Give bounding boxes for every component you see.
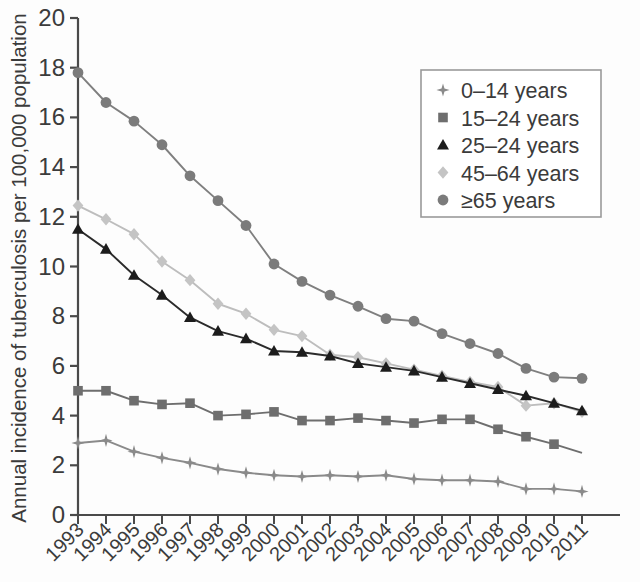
data-point-square [325, 416, 335, 426]
data-point-square [157, 400, 167, 410]
y-axis-title-text: Annual incidence of tuberculosis per 100… [7, 13, 30, 522]
data-point-circle [185, 170, 196, 181]
legend-label: 25–24 years [461, 134, 579, 158]
data-point-circle [577, 373, 588, 384]
y-tick-label: 16 [38, 103, 65, 130]
data-point-circle [269, 259, 280, 270]
data-point-square [437, 415, 447, 425]
data-point-square [129, 396, 139, 406]
legend-label: 15–24 years [461, 107, 579, 131]
data-point-circle [297, 276, 308, 287]
data-point-square [549, 439, 559, 449]
line-chart: Annual incidence of tuberculosis per 100… [0, 0, 640, 582]
data-point-square [465, 415, 475, 425]
data-point-square [269, 407, 279, 417]
data-point-circle [493, 348, 504, 359]
legend-label: 45–64 years [461, 162, 579, 186]
data-point-square [381, 416, 391, 426]
data-point-circle [353, 301, 364, 312]
data-point-square [213, 411, 223, 421]
data-point-square [73, 386, 83, 396]
y-tick-label: 20 [38, 4, 65, 31]
y-tick-label: 10 [38, 253, 65, 280]
data-point-circle [101, 97, 112, 108]
data-point-circle [381, 313, 392, 324]
y-tick-label: 6 [52, 352, 65, 379]
chart-figure: Annual incidence of tuberculosis per 100… [0, 0, 640, 582]
data-point-square [101, 386, 111, 396]
data-point-square [438, 113, 448, 123]
legend-label: 0–14 years [461, 79, 567, 103]
data-point-circle [409, 316, 420, 327]
data-point-circle [438, 195, 449, 206]
data-point-circle [521, 363, 532, 374]
y-tick-label: 2 [52, 451, 65, 478]
y-tick-label: 18 [38, 54, 65, 81]
y-tick-label: 0 [52, 501, 65, 528]
legend-label: ≥65 years [461, 189, 555, 213]
data-point-circle [437, 328, 448, 339]
data-point-square [241, 410, 251, 420]
chart-legend: 0–14 years15–24 years25–24 years45–64 ye… [421, 70, 601, 217]
data-point-square [409, 418, 419, 428]
y-axis-title: Annual incidence of tuberculosis per 100… [7, 13, 30, 522]
data-point-circle [549, 372, 560, 383]
y-tick-label: 12 [38, 203, 65, 230]
data-point-circle [213, 195, 224, 206]
data-point-circle [129, 116, 140, 127]
data-point-circle [73, 67, 84, 78]
data-point-circle [241, 220, 252, 231]
data-point-circle [325, 290, 336, 301]
data-point-square [297, 416, 307, 426]
data-point-circle [465, 338, 476, 349]
data-point-square [185, 398, 195, 408]
y-tick-label: 8 [52, 302, 65, 329]
data-point-square [493, 424, 503, 434]
data-point-square [521, 432, 531, 442]
y-tick-label: 4 [52, 402, 65, 429]
data-point-square [353, 413, 363, 423]
y-tick-label: 14 [38, 153, 65, 180]
data-point-circle [157, 139, 168, 150]
